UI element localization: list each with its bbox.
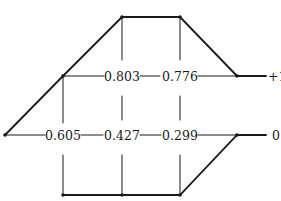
node <box>178 193 182 197</box>
trellis-diagram: 0.803 0.776 +1 0.605 0.427 0.299 0 <box>0 0 281 201</box>
node <box>3 133 7 137</box>
upper-end-label: +1 <box>268 69 281 84</box>
node <box>61 74 65 78</box>
node <box>178 15 182 19</box>
node <box>235 133 239 137</box>
upper-value-label: 0.803 <box>104 69 140 84</box>
node <box>235 74 239 78</box>
lower-value-label: 0.605 <box>45 128 81 143</box>
upper-value-label: 0.776 <box>162 69 198 84</box>
lower-path <box>63 135 266 195</box>
node <box>120 193 124 197</box>
lower-value-label: 0.299 <box>162 128 198 143</box>
lower-end-label: 0 <box>272 128 280 143</box>
node <box>120 15 124 19</box>
lower-value-label: 0.427 <box>104 128 140 143</box>
node <box>61 193 65 197</box>
